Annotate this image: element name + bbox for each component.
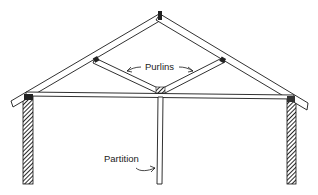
purlins-arrow-left [127, 67, 141, 72]
roof-truss-diagram [0, 0, 318, 195]
left-wall [23, 96, 33, 184]
right-plate [287, 96, 295, 102]
left-plate [24, 94, 33, 100]
right-wall [287, 98, 296, 184]
partition-arrow [136, 166, 155, 172]
ridge-block [158, 11, 162, 20]
center-block [156, 87, 165, 93]
partition-label: Partition [104, 153, 139, 164]
purlins-arrow-right [179, 67, 193, 72]
partition-wall [157, 97, 163, 184]
purlins-label: Purlins [145, 61, 174, 72]
